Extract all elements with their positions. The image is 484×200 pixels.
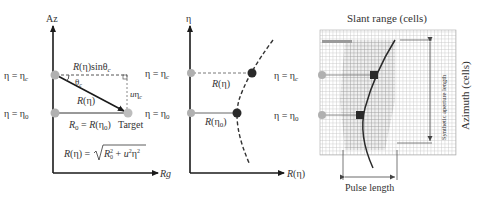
eta-0-label: η = η0 — [274, 110, 299, 123]
panel-geometry: Az Rg η = ηc η = η0 R(η)sinθc θc uηc R(η… — [4, 13, 171, 179]
eta-0-label: η = η0 — [145, 108, 170, 121]
az-axis-label: Az — [46, 13, 58, 24]
range-formula: R(η) = — [63, 148, 90, 160]
sar-geometry-diagram: Az Rg η = ηc η = η0 R(η)sinθc θc uηc R(η… — [0, 0, 484, 200]
r-eta-label: R(η) — [211, 78, 230, 90]
target-label: Target — [118, 119, 143, 130]
right-angle-mark — [123, 75, 127, 79]
eta-axis-label: η — [186, 13, 191, 24]
r-eta-axis-label: R(η) — [286, 168, 305, 180]
range-curve — [237, 40, 273, 165]
curve-point-c — [248, 69, 257, 78]
point-eta-0 — [318, 111, 326, 119]
rg-axis-label: Rg — [159, 168, 171, 179]
echo-point-0 — [356, 111, 364, 119]
u-eta-c-label: uηc — [130, 89, 142, 100]
aperture-label: Synthetic aperture length — [440, 74, 447, 140]
panel-range-history: η R(η) η = ηc η = η0 R(η) RR(η(η0) — [145, 13, 305, 180]
point-eta-0 — [187, 109, 195, 117]
point-eta-0 — [51, 109, 60, 118]
grid-top-bar — [322, 40, 352, 43]
slant-range-title: Slant range (cells) — [347, 12, 427, 25]
theta-label: θc — [75, 77, 82, 88]
pulse-length-label: Pulse length — [345, 182, 394, 193]
eta-c-label: η = ηc — [4, 70, 29, 83]
eta-0-label: η = η0 — [4, 108, 29, 121]
echo-point-c — [370, 71, 378, 79]
eta-c-label: η = ηc — [145, 68, 170, 81]
eta-c-label: η = ηc — [274, 70, 299, 83]
target-point — [124, 109, 133, 118]
curve-point-0 — [233, 109, 242, 118]
formula-radicand: R20 + u2η2 — [103, 148, 140, 160]
azimuth-label: Azimuth (cells) — [459, 61, 472, 130]
hyp-label: R(η) — [76, 95, 95, 107]
panel-raw-data-grid: Slant range (cells) Synthetic aperture l… — [274, 12, 472, 193]
r0-label: R0 = R(η0) — [68, 119, 111, 132]
point-eta-c — [51, 71, 60, 80]
point-eta-c — [187, 69, 195, 77]
r-eta0-label: RR(η(η0) — [204, 116, 227, 129]
r-sin-theta-label: R(η)sinθc — [72, 61, 111, 74]
point-eta-c — [318, 71, 326, 79]
signal-band — [340, 40, 395, 150]
